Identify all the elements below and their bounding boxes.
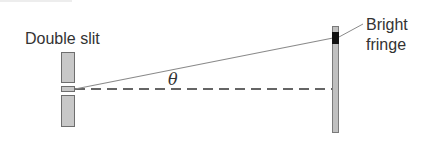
bright-fringe-label-line1: Bright xyxy=(366,15,408,34)
angle-theta-label: θ xyxy=(168,70,178,89)
ray-to-fringe xyxy=(75,38,333,89)
slit-bottom-block xyxy=(62,96,75,127)
double-slit-barrier xyxy=(62,53,75,127)
slit-top-block xyxy=(62,53,75,83)
bright-fringe-mark xyxy=(332,32,339,44)
fringe-label-leader xyxy=(339,24,363,37)
double-slit-label: Double slit xyxy=(25,29,100,48)
slit-middle-block xyxy=(62,87,75,92)
bright-fringe-label-line2: fringe xyxy=(366,35,406,54)
